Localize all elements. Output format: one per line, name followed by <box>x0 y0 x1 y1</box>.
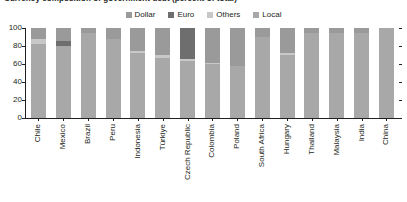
x-tick-mark <box>113 118 114 121</box>
legend-swatch-local <box>253 12 259 18</box>
x-tick-mark <box>262 118 263 121</box>
stacked-bar <box>106 28 121 118</box>
y-tick-mark <box>22 118 25 119</box>
legend-label-euro: Euro <box>177 11 194 19</box>
bar-column <box>225 28 250 118</box>
bar-segment-dollar <box>31 28 46 39</box>
stacked-bar <box>180 28 195 118</box>
x-label-column: Thailand <box>299 122 324 198</box>
legend-label-dollar: Dollar <box>135 11 156 19</box>
bar-group <box>26 28 399 118</box>
legend-swatch-others <box>207 12 213 18</box>
x-tick-label: Indonesia <box>134 124 142 159</box>
stacked-bar <box>81 28 96 118</box>
bar-segment-euro <box>180 28 195 59</box>
x-label-column: Peru <box>101 122 126 198</box>
x-label-column: Türkiye <box>150 122 175 198</box>
x-tick-label: Poland <box>233 124 241 149</box>
bar-segment-local <box>130 53 145 118</box>
y-tick-label: 80 <box>13 42 22 50</box>
bar-segment-dollar <box>155 28 170 55</box>
bar-column <box>101 28 126 118</box>
x-tick-mark <box>38 118 39 121</box>
bar-column <box>200 28 225 118</box>
bar-column <box>175 28 200 118</box>
x-label-column: Colombia <box>200 122 225 198</box>
bar-segment-local <box>304 33 319 119</box>
x-label-column: South Africa <box>250 122 275 198</box>
x-label-column: Brazil <box>76 122 101 198</box>
x-tick-label: Colombia <box>208 124 216 158</box>
stacked-bar <box>329 28 344 118</box>
legend-label-local: Local <box>262 11 281 19</box>
y-tick-mark <box>22 64 25 65</box>
bar-segment-local <box>255 37 270 118</box>
x-tick-label: Türkiye <box>159 124 167 150</box>
page-title: Currency composition of government debt … <box>4 0 237 3</box>
bar-column <box>299 28 324 118</box>
x-tick-label: Hungary <box>283 124 291 154</box>
bar-column <box>374 28 399 118</box>
x-tick-label: Peru <box>109 124 117 141</box>
bar-column <box>275 28 300 118</box>
x-label-column: Czech Republic <box>175 122 200 198</box>
bar-segment-dollar <box>205 28 220 63</box>
stacked-bar <box>354 28 369 118</box>
legend-item-others: Others <box>207 11 240 19</box>
bar-segment-local <box>106 39 121 118</box>
legend-item-euro: Euro <box>168 11 194 19</box>
x-tick-mark <box>312 118 313 121</box>
y-tick-label: 40 <box>13 78 22 86</box>
bar-segment-dollar <box>130 28 145 51</box>
x-tick-mark <box>138 118 139 121</box>
legend-item-dollar: Dollar <box>126 11 156 19</box>
x-label-column: China <box>374 122 399 198</box>
bar-segment-dollar <box>255 28 270 37</box>
stacked-bar <box>130 28 145 118</box>
stacked-bar <box>379 28 394 118</box>
x-label-column: Poland <box>225 122 250 198</box>
x-label-column: Malaysia <box>324 122 349 198</box>
bar-segment-local <box>379 28 394 118</box>
x-axis-labels: ChileMexicoBrazilPeruIndonesiaTürkiyeCze… <box>26 122 399 198</box>
x-tick-mark <box>362 118 363 121</box>
x-tick-label: Thailand <box>308 124 316 155</box>
y-tick-label: 60 <box>13 60 22 68</box>
x-tick-mark <box>287 118 288 121</box>
stacked-bar <box>31 28 46 118</box>
bar-segment-local <box>230 66 245 118</box>
bar-segment-local <box>205 64 220 118</box>
y-tick-label: 100 <box>9 24 22 32</box>
x-tick-mark <box>63 118 64 121</box>
plot-area: 020406080100 <box>26 28 399 118</box>
x-tick-mark <box>386 118 387 121</box>
stacked-bar <box>255 28 270 118</box>
y-tick-mark <box>22 28 25 29</box>
x-label-column: Hungary <box>275 122 300 198</box>
y-tick-mark-right <box>399 82 402 83</box>
x-tick-label: Czech Republic <box>184 124 192 180</box>
bar-column <box>51 28 76 118</box>
x-tick-mark <box>212 118 213 121</box>
x-tick-label: South Africa <box>258 124 266 167</box>
x-tick-label: Brazil <box>84 124 92 144</box>
bar-segment-local <box>180 61 195 118</box>
bar-column <box>324 28 349 118</box>
chart-legend: Dollar Euro Others Local <box>0 11 407 19</box>
x-tick-mark <box>337 118 338 121</box>
y-tick-label: 20 <box>13 96 22 104</box>
bar-segment-dollar <box>230 28 245 66</box>
bar-segment-local <box>280 55 295 118</box>
bar-column <box>26 28 51 118</box>
y-tick-mark-right <box>399 46 402 47</box>
x-label-column: India <box>349 122 374 198</box>
bar-column <box>349 28 374 118</box>
bar-column <box>76 28 101 118</box>
y-tick-mark-right <box>399 28 402 29</box>
x-tick-mark <box>237 118 238 121</box>
legend-item-local: Local <box>253 11 281 19</box>
x-tick-label: China <box>382 124 390 145</box>
bar-column <box>150 28 175 118</box>
bar-segment-local <box>81 33 96 119</box>
x-label-column: Indonesia <box>125 122 150 198</box>
